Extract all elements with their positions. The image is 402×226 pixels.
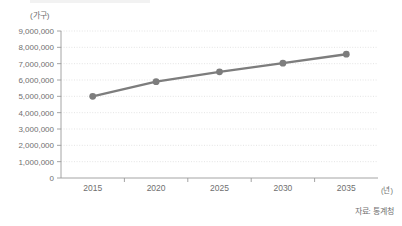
data-point-marker: [216, 68, 223, 75]
x-tick-marks-group: [124, 178, 314, 182]
x-tick-labels-group: 20152020202520302035: [83, 183, 356, 193]
x-tick-label: 2035: [337, 183, 356, 193]
line-chart-plot: 01,000,0002,000,0003,000,0004,000,0005,0…: [0, 0, 402, 226]
x-tick-label: 2025: [210, 183, 229, 193]
y-tick-marks-group: [57, 31, 61, 178]
y-tick-label: 7,000,000: [18, 60, 54, 69]
y-tick-label: 9,000,000: [18, 27, 54, 36]
x-tick-label: 2015: [83, 183, 102, 193]
x-tick-label: 2030: [273, 183, 292, 193]
x-axis-unit-label: (년): [381, 184, 393, 195]
y-tick-label: 6,000,000: [18, 76, 54, 85]
y-tick-label: 4,000,000: [18, 109, 54, 118]
chart-container: (가구) 01,000,0002,000,0003,000,0004,000,0…: [0, 0, 402, 226]
data-point-marker: [89, 93, 96, 100]
y-tick-label: 3,000,000: [18, 125, 54, 134]
data-point-marker: [343, 51, 350, 58]
source-note: 자료: 통계청: [355, 205, 394, 216]
gridlines-group: [61, 31, 378, 162]
series-line-households: [93, 54, 347, 96]
data-point-marker: [153, 78, 160, 85]
y-tick-label: 2,000,000: [18, 141, 54, 150]
y-tick-label: 8,000,000: [18, 43, 54, 52]
y-tick-label: 1,000,000: [18, 158, 54, 167]
y-tick-labels-group: 01,000,0002,000,0003,000,0004,000,0005,0…: [18, 27, 54, 183]
data-point-marker: [280, 60, 287, 67]
y-tick-label: 0: [50, 174, 55, 183]
x-tick-label: 2020: [147, 183, 166, 193]
y-tick-label: 5,000,000: [18, 92, 54, 101]
